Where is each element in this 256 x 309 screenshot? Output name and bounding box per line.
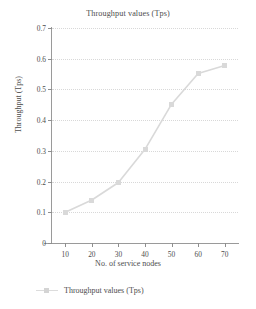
- data-point-marker: [143, 147, 148, 152]
- data-point-marker: [196, 71, 201, 76]
- x-tick-label: 40: [141, 250, 148, 259]
- chart-title: Throughput values (Tps): [0, 9, 256, 18]
- data-point-marker: [222, 63, 227, 68]
- x-axis-line: [44, 243, 239, 244]
- y-tick-label: 0.6: [37, 54, 46, 63]
- x-tick-label: 10: [62, 250, 69, 259]
- x-axis-title: No. of service nodes: [0, 259, 256, 268]
- data-point-marker: [89, 198, 94, 203]
- data-point-marker: [63, 210, 68, 215]
- y-tick-label: 0: [42, 239, 46, 248]
- x-tick-mark: [225, 243, 226, 247]
- x-tick-mark: [145, 243, 146, 247]
- y-tick-label: 0.2: [37, 177, 46, 186]
- series-line: [52, 28, 238, 243]
- x-tick-label: 20: [88, 250, 95, 259]
- legend-item-label: Throughput values (Tps): [64, 286, 144, 295]
- x-tick-label: 70: [221, 250, 228, 259]
- y-tick-label: 0.7: [37, 24, 46, 33]
- x-tick-label: 60: [194, 250, 201, 259]
- chart-legend: Throughput values (Tps): [36, 286, 144, 295]
- y-tick-label: 0.5: [37, 85, 46, 94]
- x-tick-mark: [92, 243, 93, 247]
- x-tick-mark: [118, 243, 119, 247]
- x-tick-label: 30: [115, 250, 122, 259]
- y-tick-mark: [48, 243, 52, 244]
- y-tick-label: 0.3: [37, 146, 46, 155]
- data-point-marker: [169, 102, 174, 107]
- data-point-marker: [116, 180, 121, 185]
- y-axis-title: Throughput (Tps): [14, 35, 23, 175]
- plot-area: 00.10.20.30.40.50.60.7 10203040506070: [52, 28, 238, 243]
- x-tick-label: 50: [168, 250, 175, 259]
- x-tick-mark: [65, 243, 66, 247]
- chart-figure: Throughput values (Tps) 00.10.20.30.40.5…: [0, 0, 256, 309]
- x-tick-mark: [172, 243, 173, 247]
- y-tick-label: 0.1: [37, 208, 46, 217]
- legend-marker-icon: [36, 287, 58, 295]
- x-tick-mark: [198, 243, 199, 247]
- y-tick-label: 0.4: [37, 116, 46, 125]
